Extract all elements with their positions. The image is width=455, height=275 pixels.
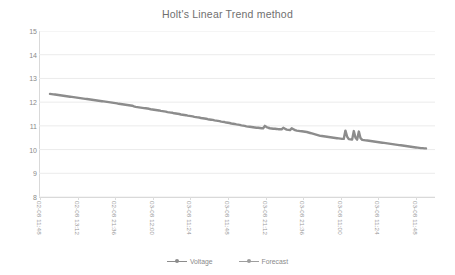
legend-marker-icon [239,258,259,265]
x-tick-label: 02-08 13:12 [74,201,81,235]
x-tick-label: 03-08 11:24 [186,201,193,235]
legend-item[interactable]: Voltage [167,258,213,265]
chart-container: Holt's Linear Trend method 8910111213141… [0,0,455,275]
chart-legend: VoltageForecast [0,258,455,265]
x-tick-label: 03-08 21:36 [299,201,306,235]
x-tick-mark [115,197,116,200]
legend-label: Voltage [190,258,213,265]
x-tick-label: 03-08 21:12 [262,201,269,235]
x-tick-label: 03-08 12:00 [149,201,156,235]
x-tick-mark [266,197,267,200]
x-tick-mark [341,197,342,200]
x-tick-mark [303,197,304,200]
x-tick-label: 03-08 11:24 [374,201,381,235]
legend-item[interactable]: Forecast [239,258,288,265]
x-tick-label: 03-08 11:00 [337,201,344,235]
legend-label: Forecast [262,258,288,265]
x-tick-mark [40,197,41,200]
x-tick-label: 02-08 21:36 [111,201,118,235]
x-tick-mark [190,197,191,200]
legend-marker-icon [167,258,187,265]
x-axis: 02-08 11:4802-08 13:1202-08 21:3603-08 1… [0,0,455,275]
x-tick-mark [228,197,229,200]
x-tick-mark [78,197,79,200]
x-tick-label: 02-08 11:48 [36,201,43,235]
x-tick-label: 03-08 11:48 [224,201,231,235]
x-tick-mark [378,197,379,200]
x-tick-mark [153,197,154,200]
x-tick-label: 03-08 11:48 [412,201,419,235]
x-tick-mark [416,197,417,200]
